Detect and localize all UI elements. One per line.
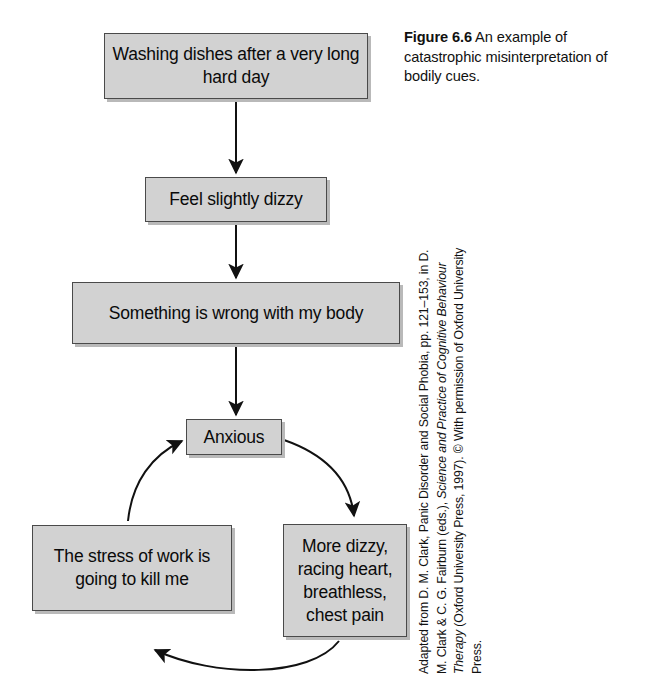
flow-node-more-dizzy-symptoms-label: More dizzy, racing heart, breathless, ch… [284,535,406,627]
edge-stress-to-anxious [128,441,182,521]
flow-node-more-dizzy-symptoms: More dizzy, racing heart, breathless, ch… [283,524,407,637]
edge-anxious-to-symptoms [284,440,354,516]
figure-caption: Figure 6.6 An example of catastrophic mi… [404,28,620,87]
edge-symptoms-to-stress [155,641,339,670]
flow-node-stress-of-work-label: The stress of work is going to kill me [33,545,231,591]
flow-node-trigger-label: Washing dishes after a very long hard da… [105,43,367,89]
flow-node-something-is-wrong: Something is wrong with my body [72,282,400,344]
flow-node-anxious-label: Anxious [204,426,265,449]
flow-node-stress-of-work: The stress of work is going to kill me [32,525,232,611]
flow-node-feel-slightly-dizzy-label: Feel slightly dizzy [169,188,302,211]
flow-node-something-is-wrong-label: Something is wrong with my body [109,302,363,325]
flow-node-trigger: Washing dishes after a very long hard da… [104,33,368,99]
figure-number: Figure 6.6 [404,29,472,45]
source-credit-note: Adapted from D. M. Clark, Panic Disorder… [416,244,480,674]
flow-node-feel-slightly-dizzy: Feel slightly dizzy [145,177,327,222]
source-credit-suffix: (Oxford University Press, 1997). © With … [452,248,484,674]
flow-node-anxious: Anxious [186,419,282,455]
